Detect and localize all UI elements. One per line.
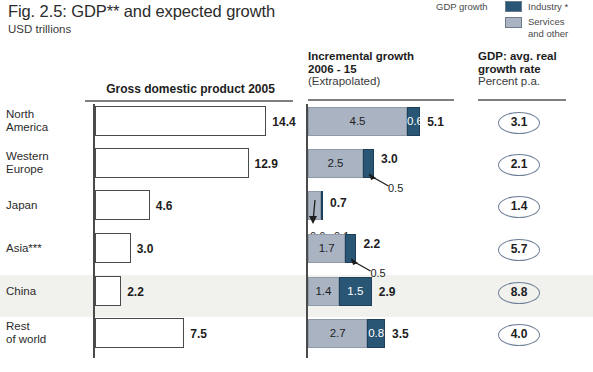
incremental-total-label: 2.2: [363, 237, 380, 251]
row-label: WesternEurope: [6, 150, 88, 176]
segment-services-label: 2.5: [308, 149, 363, 178]
gdp-bar[interactable]: [95, 148, 249, 178]
gdp-value: 4.6: [156, 199, 173, 213]
row-label-line1: North: [6, 108, 88, 121]
row-label-line2: of world: [6, 333, 88, 346]
services-callout-arrow: [301, 200, 341, 226]
row-label-line2: Europe: [6, 163, 88, 176]
incremental-total-label: 3.0: [381, 152, 398, 166]
growth-rate-badge: 5.7: [498, 239, 540, 261]
growth-rate-badge: 1.4: [498, 196, 540, 218]
row-label: Japan: [6, 199, 88, 212]
row-label-line1: Japan: [6, 199, 88, 212]
column-header-incremental-rule: [308, 99, 454, 101]
segment-industry-label: 1.5: [339, 277, 372, 306]
column-header-gdp: Gross domestic product 2005: [88, 82, 293, 96]
column-header-incremental-line3: (Extrapolated): [308, 75, 468, 88]
row-label: NorthAmerica: [6, 108, 88, 134]
column-header-rate: GDP: avg. real growth rate Percent p.a.: [478, 50, 590, 88]
segment-services-label: 2.7: [308, 319, 367, 348]
column-header-gdp-rule: [85, 100, 293, 102]
legend-label-industry: Industry *: [528, 1, 568, 12]
figure-subtitle: USD trillions: [8, 23, 71, 35]
legend-title: GDP growth: [436, 1, 488, 12]
legend-swatch-industry: [505, 1, 522, 12]
industry-callout-label: 0.5: [370, 267, 385, 279]
gdp-bar[interactable]: [95, 106, 266, 136]
segment-services-label: 4.5: [308, 107, 407, 136]
gdp-value: 2.2: [127, 285, 144, 299]
growth-rate-badge: 8.8: [498, 282, 540, 304]
gdp-value: 12.9: [255, 157, 278, 171]
row-label-line1: Rest: [6, 320, 88, 333]
legend-label-services-line1: Services: [528, 16, 568, 28]
legend-label-services: Services and other: [528, 16, 568, 39]
column-header-incremental-line1: Incremental growth: [308, 50, 468, 63]
gdp-value: 14.4: [272, 115, 295, 129]
row-label: China: [6, 285, 88, 298]
row-label-line1: Asia***: [6, 242, 88, 255]
row-label: Asia***: [6, 242, 88, 255]
growth-rate-badge: 4.0: [498, 324, 540, 346]
row-label-line2: America: [6, 121, 88, 134]
column-header-rate-line3: Percent p.a.: [478, 75, 590, 88]
gdp-bar[interactable]: [95, 190, 150, 220]
column-header-rate-rule: [478, 99, 566, 101]
column-header-rate-line1: GDP: avg. real: [478, 50, 590, 63]
segment-services-label: 1.4: [308, 277, 339, 306]
figure-title: Fig. 2.5: GDP** and expected growth: [8, 2, 275, 21]
figure-root: Fig. 2.5: GDP** and expected growth USD …: [0, 0, 593, 372]
segment-industry-label: 0.8: [367, 319, 385, 348]
row-label-line1: China: [6, 285, 88, 298]
growth-rate-badge: 3.1: [498, 112, 540, 134]
incremental-total-label: 3.5: [392, 327, 409, 341]
column-header-incremental-line2: 2006 - 15: [308, 63, 468, 76]
gdp-bar[interactable]: [95, 318, 184, 348]
legend-label-services-line2: and other: [528, 28, 568, 40]
incremental-total-label: 2.9: [379, 285, 396, 299]
column-header-rate-line2: growth rate: [478, 63, 590, 76]
gdp-bar[interactable]: [95, 233, 131, 263]
row-label: Restof world: [6, 320, 88, 346]
segment-industry-label: 0.6: [407, 107, 420, 136]
legend-swatch-services: [505, 17, 522, 28]
gdp-value: 3.0: [137, 242, 154, 256]
row-label-line1: Western: [6, 150, 88, 163]
column-header-incremental: Incremental growth 2006 - 15 (Extrapolat…: [308, 50, 468, 88]
gdp-bar[interactable]: [95, 276, 121, 306]
incremental-total-label: 5.1: [427, 115, 444, 129]
industry-callout-label: 0.5: [388, 182, 403, 194]
legend: GDP growth Industry * Services and other: [436, 1, 591, 43]
segment-services-label: 1.7: [308, 234, 345, 263]
growth-rate-badge: 2.1: [498, 154, 540, 176]
gdp-value: 7.5: [190, 327, 207, 341]
